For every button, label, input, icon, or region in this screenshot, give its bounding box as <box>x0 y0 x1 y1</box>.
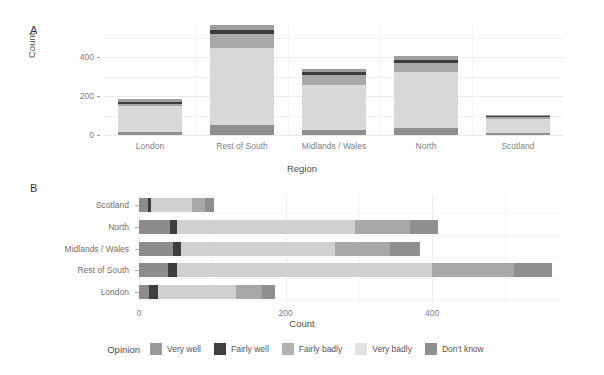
bar-segment[interactable] <box>410 220 438 234</box>
legend-item-label: Very badly <box>372 344 412 354</box>
y-tick-label: Rest of South <box>77 265 129 275</box>
bar-segment[interactable] <box>151 198 192 212</box>
x-tick-label: Midlands / Wales <box>302 141 366 151</box>
gridline-major <box>104 135 564 136</box>
bar-stack[interactable] <box>210 25 274 135</box>
legend: Opinion Very wellFairly wellFairly badly… <box>0 338 604 360</box>
bar-segment[interactable] <box>118 132 182 135</box>
x-tick-label: Scotland <box>501 141 534 151</box>
bar-segment[interactable] <box>139 285 149 299</box>
legend-item-label: Don't know <box>442 344 484 354</box>
legend-item[interactable]: Fairly badly <box>282 343 342 355</box>
bar-segment[interactable] <box>210 34 274 48</box>
y-tick-label: London <box>101 287 129 297</box>
legend-swatch-icon <box>150 343 162 355</box>
gridline-vertical <box>472 22 473 135</box>
x-tick-label: 400 <box>425 308 439 318</box>
bar-segment[interactable] <box>173 242 180 256</box>
gridline-minor <box>505 194 506 303</box>
legend-swatch-icon <box>425 343 437 355</box>
x-tick-label: 0 <box>137 308 142 318</box>
bar-segment[interactable] <box>139 220 170 234</box>
bar-segment[interactable] <box>486 133 550 135</box>
bar-segment[interactable] <box>262 285 274 299</box>
gridline-row <box>139 278 564 279</box>
bar-stack[interactable] <box>302 69 366 135</box>
x-tick-label: London <box>136 141 164 151</box>
y-tick-label: 0 <box>89 130 94 140</box>
bar-segment[interactable] <box>486 119 550 133</box>
bar-segment[interactable] <box>177 220 355 234</box>
y-tick-label: 400 <box>80 52 94 62</box>
bar-segment[interactable] <box>205 198 214 212</box>
legend-item[interactable]: Very badly <box>355 343 412 355</box>
y-tick-label: Scotland <box>96 200 129 210</box>
bar-segment[interactable] <box>394 128 458 135</box>
bar-segment[interactable] <box>170 220 177 234</box>
y-tick-label: North <box>108 222 129 232</box>
bar-stack[interactable] <box>118 99 182 135</box>
y-tick-label: Midlands / Wales <box>65 244 129 254</box>
x-tick-label: Rest of South <box>216 141 268 151</box>
bar-stack[interactable] <box>139 263 552 277</box>
gridline-vertical <box>288 22 289 135</box>
bar-stack[interactable] <box>486 115 550 135</box>
bar-segment[interactable] <box>139 242 173 256</box>
legend-item-label: Fairly badly <box>299 344 342 354</box>
panel-a: A Count Region 0200400 LondonRest of Sou… <box>0 0 604 180</box>
bar-stack[interactable] <box>139 198 214 212</box>
gridline-vertical <box>196 22 197 135</box>
bar-segment[interactable] <box>149 285 158 299</box>
bar-stack[interactable] <box>139 220 438 234</box>
bar-segment[interactable] <box>168 263 177 277</box>
y-tick-label: 200 <box>80 91 94 101</box>
gridline-minor <box>104 38 564 39</box>
legend-item-label: Fairly well <box>231 344 269 354</box>
bar-segment[interactable] <box>302 75 366 85</box>
bar-segment[interactable] <box>390 242 419 256</box>
bar-segment[interactable] <box>177 263 432 277</box>
panel-a-y-tick-labels: 0200400 <box>0 22 100 135</box>
bar-stack[interactable] <box>394 56 458 135</box>
y-tick-mark <box>97 96 100 97</box>
gridline-row <box>139 257 564 258</box>
panel-b-y-tick-labels: ScotlandNorthMidlands / WalesRest of Sou… <box>0 194 139 303</box>
bar-segment[interactable] <box>210 48 274 125</box>
legend-item[interactable]: Fairly well <box>214 343 269 355</box>
gridline-row <box>139 235 564 236</box>
legend-item[interactable]: Don't know <box>425 343 484 355</box>
bar-segment[interactable] <box>335 242 391 256</box>
bar-segment[interactable] <box>192 198 205 212</box>
x-tick-label: 200 <box>278 308 292 318</box>
legend-swatch-icon <box>282 343 294 355</box>
legend-items: Very wellFairly wellFairly badlyVery bad… <box>150 343 497 355</box>
x-tick-label: North <box>416 141 437 151</box>
bar-segment[interactable] <box>139 263 168 277</box>
legend-swatch-icon <box>214 343 226 355</box>
bar-segment[interactable] <box>355 220 410 234</box>
bar-segment[interactable] <box>210 125 274 135</box>
bar-segment[interactable] <box>158 285 236 299</box>
bar-segment[interactable] <box>302 85 366 130</box>
bar-segment[interactable] <box>118 106 182 132</box>
legend-title: Opinion <box>107 344 140 355</box>
bar-segment[interactable] <box>394 63 458 72</box>
bar-stack[interactable] <box>139 285 275 299</box>
bar-segment[interactable] <box>514 263 552 277</box>
legend-item-label: Very well <box>167 344 201 354</box>
bar-segment[interactable] <box>236 285 262 299</box>
bar-stack[interactable] <box>139 242 420 256</box>
bar-segment[interactable] <box>139 198 148 212</box>
legend-item[interactable]: Very well <box>150 343 201 355</box>
panel-a-x-tick-labels: LondonRest of SouthMidlands / WalesNorth… <box>104 139 564 155</box>
bar-segment[interactable] <box>302 130 366 135</box>
panel-b-tag: B <box>30 182 38 194</box>
bar-segment[interactable] <box>394 72 458 128</box>
gridline-major <box>104 57 564 58</box>
gridline-row <box>139 300 564 301</box>
panel-b-plot-area <box>139 194 564 303</box>
bar-segment[interactable] <box>432 263 514 277</box>
gridline-vertical <box>380 22 381 135</box>
y-tick-mark <box>97 135 100 136</box>
bar-segment[interactable] <box>181 242 335 256</box>
